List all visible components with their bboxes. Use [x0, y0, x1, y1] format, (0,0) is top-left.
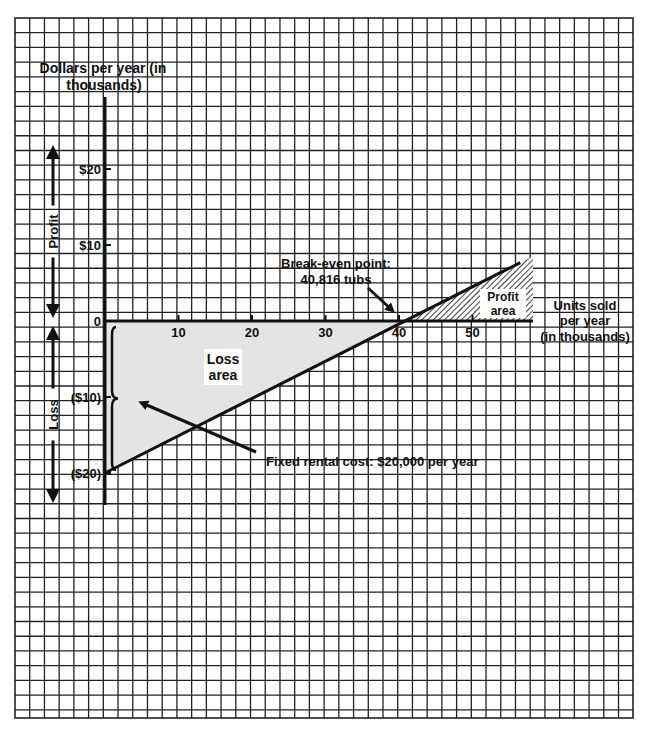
side-label: Profit	[46, 214, 61, 249]
profit-area-label: area	[491, 304, 516, 318]
fixed-cost-annotation: Fixed rental cost: $20,000 per year	[266, 454, 478, 469]
y-tick-label: $10	[79, 238, 101, 253]
x-tick-label: 10	[171, 325, 185, 340]
break-even-annotation: Break-even point:	[281, 256, 391, 271]
x-axis-title-line: per year	[560, 313, 611, 328]
x-tick-label: 20	[245, 325, 259, 340]
x-tick-label: 30	[318, 325, 332, 340]
y-axis-title-line: thousands)	[66, 77, 141, 93]
break-even-annotation: 40,816 tubs	[301, 272, 372, 287]
x-axis-title-line: (in thousands)	[540, 329, 630, 344]
loss-area-label: area	[209, 367, 238, 383]
y-tick-label: $20	[79, 162, 101, 177]
loss-area-label: Loss	[207, 351, 240, 367]
y-tick-label: ($20)	[71, 466, 101, 481]
y-tick-label: ($10)	[71, 390, 101, 405]
profit-area-label: Profit	[487, 290, 518, 304]
break-even-chart: LossareaProfitarea 1020304050$20$100($10…	[0, 0, 648, 731]
side-label: Loss	[46, 399, 61, 429]
x-axis-title-line: Units sold	[554, 298, 617, 313]
chart-canvas: LossareaProfitarea 1020304050$20$100($10…	[0, 0, 648, 731]
y-axis-title-line: Dollars per year (in	[40, 60, 167, 76]
x-tick-label: 50	[465, 325, 479, 340]
y-tick-label: 0	[94, 314, 101, 329]
